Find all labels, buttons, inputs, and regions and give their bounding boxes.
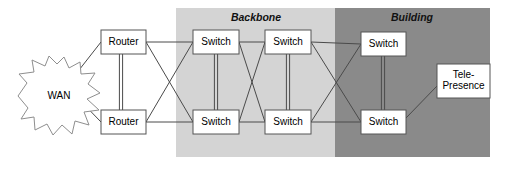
node-label: Switch [201, 36, 230, 47]
zone-label-building: Building [391, 11, 434, 23]
node-telepresence[interactable]: Tele-Presence [437, 64, 490, 98]
node-label: Switch [273, 116, 302, 127]
node-switch-bldg-top[interactable]: Switch [361, 32, 406, 56]
link-router-router-a [119, 54, 122, 110]
node-switch-bb-top-1[interactable]: Switch [193, 30, 239, 54]
node-switch-bb-top-2[interactable]: Switch [265, 30, 311, 54]
node-switch-bldg-bot[interactable]: Switch [361, 110, 406, 134]
network-diagram: Backbone Building WAN RouterRouterSwitch… [0, 0, 509, 170]
network-diagram-canvas: Backbone Building WAN RouterRouterSwitch… [0, 0, 509, 170]
wan-cloud: WAN [18, 56, 100, 135]
node-switch-bb-bot-1[interactable]: Switch [193, 110, 239, 134]
node-label: Router [108, 36, 139, 47]
node-label: Tele- [453, 69, 475, 80]
node-switch-bb-bot-2[interactable]: Switch [265, 110, 311, 134]
node-label: Switch [369, 38, 398, 49]
zone-label-backbone: Backbone [231, 11, 281, 23]
node-label: Switch [201, 116, 230, 127]
node-router-top[interactable]: Router [101, 30, 146, 54]
node-label: Switch [369, 116, 398, 127]
node-label: Switch [273, 36, 302, 47]
node-router-bottom[interactable]: Router [101, 110, 146, 134]
node-label: Presence [442, 80, 485, 91]
node-label: Router [108, 116, 139, 127]
wan-label: WAN [48, 90, 71, 101]
